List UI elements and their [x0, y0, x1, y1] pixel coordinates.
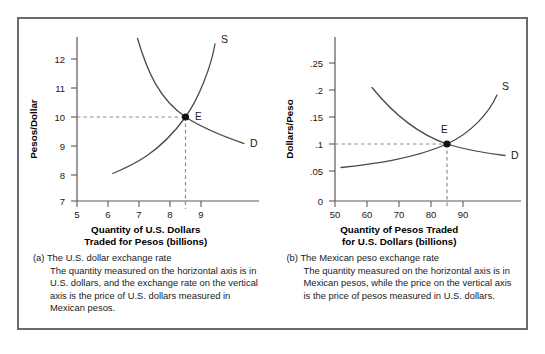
chart-a-xtick-8: 8 — [167, 209, 172, 220]
chart-a-xtick-5: 5 — [74, 209, 79, 220]
chart-b-xtick-90: 90 — [457, 209, 468, 220]
chart-a-y-ticks: 12 11 10 9 8 7 — [54, 54, 77, 207]
chart-a-caption: (a) The U.S. dollar exchange rate The qu… — [19, 252, 273, 315]
chart-panel-a: Pesos/Dollar 12 11 10 9 8 7 — [19, 19, 273, 328]
chart-a-x-ticks: 5 6 7 8 9 — [74, 201, 203, 220]
chart-a-ytick-10: 10 — [54, 112, 65, 123]
chart-b-caption-head: (b) The Mexican peso exchange rate — [287, 252, 515, 264]
chart-b-x-axis-title-line2: for U.S. Dollars (billions) — [273, 236, 527, 248]
chart-a-equilibrium-label: E — [195, 111, 202, 122]
chart-b-y-ticks: .25 .2 .15 .1 .05 0 — [309, 58, 334, 207]
chart-b-x-axis-title-line1: Quantity of Pesos Traded — [273, 224, 527, 236]
chart-a-equilibrium-dot — [182, 113, 189, 120]
chart-a-xtick-7: 7 — [136, 209, 141, 220]
chart-b-ytick-20: .2 — [315, 85, 323, 96]
chart-a-supply-label: S — [221, 33, 228, 45]
chart-b-xtick-80: 80 — [425, 209, 436, 220]
chart-b-equilibrium-dot — [443, 140, 450, 147]
chart-b-caption-body: The quantity measured on the horizontal … — [287, 265, 515, 302]
chart-b-demand-curve — [372, 88, 505, 156]
figure-frame: Pesos/Dollar 12 11 10 9 8 7 — [17, 17, 528, 330]
chart-a-supply-curve — [113, 44, 215, 174]
chart-b-ytick-15: .15 — [309, 112, 322, 123]
chart-b-caption: (b) The Mexican peso exchange rate The q… — [273, 252, 527, 302]
chart-b-x-axis-title: Quantity of Pesos Traded for U.S. Dollar… — [273, 224, 527, 247]
chart-b-xtick-60: 60 — [361, 209, 372, 220]
chart-a-ytick-7: 7 — [60, 196, 65, 207]
chart-b-xtick-50: 50 — [329, 209, 340, 220]
chart-a-x-axis-title: Quantity of U.S. Dollars Traded for Peso… — [19, 224, 273, 247]
chart-b-ytick-25: .25 — [309, 58, 322, 69]
chart-b-ytick-10: .1 — [315, 139, 323, 150]
chart-a-caption-head: (a) The U.S. dollar exchange rate — [33, 252, 261, 264]
chart-a-x-axis-title-line1: Quantity of U.S. Dollars — [19, 224, 273, 236]
chart-b-ytick-0: 0 — [317, 196, 322, 207]
chart-b-supply-label: S — [502, 80, 509, 92]
chart-b-equilibrium-label: E — [441, 124, 448, 135]
chart-a-caption-body: The quantity measured on the horizontal … — [33, 265, 261, 315]
chart-b-xtick-70: 70 — [393, 209, 404, 220]
chart-a-plot: Pesos/Dollar 12 11 10 9 8 7 — [19, 19, 274, 229]
chart-a-ytick-11: 11 — [55, 83, 65, 94]
chart-b-y-axis-title: Dollars/Peso — [284, 99, 295, 158]
chart-a-xtick-9: 9 — [198, 209, 203, 220]
chart-a-demand-label: D — [250, 137, 258, 149]
chart-b-ytick-05: .05 — [309, 166, 322, 177]
chart-a-xtick-6: 6 — [105, 209, 110, 220]
chart-b-demand-label: D — [511, 149, 519, 161]
chart-a-y-axis-title: Pesos/Dollar — [28, 99, 39, 159]
chart-a-ytick-8: 8 — [60, 170, 65, 181]
chart-panel-b: Dollars/Peso .25 .2 .15 .1 .05 0 — [273, 19, 527, 328]
chart-b-plot: Dollars/Peso .25 .2 .15 .1 .05 0 — [273, 19, 528, 229]
chart-a-ytick-12: 12 — [54, 54, 65, 65]
chart-a-ytick-9: 9 — [60, 141, 65, 152]
chart-a-demand-curve — [138, 38, 245, 143]
chart-a-x-axis-title-line2: Traded for Pesos (billions) — [19, 236, 273, 248]
